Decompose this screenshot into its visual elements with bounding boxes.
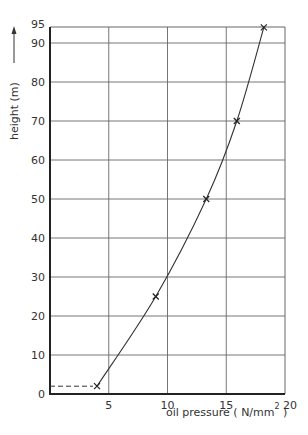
x-marker-icon — [153, 294, 159, 300]
y-tick-label: 60 — [31, 154, 45, 167]
x-axis-label-main: oil pressure ( N/mm — [166, 406, 275, 419]
y-tick-label: 50 — [31, 193, 45, 206]
y-tick-label: 90 — [31, 37, 45, 50]
y-tick-label: 95 — [31, 18, 45, 31]
y-tick-label: 10 — [31, 349, 45, 362]
x-marker-icon — [94, 383, 100, 389]
x-tick-label: 5 — [105, 399, 112, 412]
up-arrow-head-icon — [12, 26, 17, 34]
y-tick-label: 0 — [38, 388, 45, 401]
y-tick-label: 20 — [31, 310, 45, 323]
chart: 010203040506070809095 5101520 height (m)… — [0, 0, 308, 435]
y-axis-label-group: height (m) — [8, 26, 21, 140]
x-axis-label-close: ) — [280, 406, 288, 419]
data-curve — [97, 27, 264, 386]
y-axis-label: height (m) — [8, 82, 21, 140]
y-tick-label: 30 — [31, 271, 45, 284]
y-tick-label: 70 — [31, 115, 45, 128]
y-tick-label: 40 — [31, 232, 45, 245]
y-tick-label: 80 — [31, 76, 45, 89]
data-markers — [94, 24, 267, 389]
grid — [50, 27, 285, 394]
y-tick-labels: 010203040506070809095 — [31, 18, 45, 402]
